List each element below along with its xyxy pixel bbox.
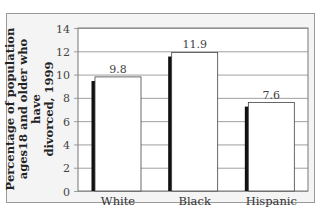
value-label: 9.8 <box>109 63 127 76</box>
category-label: Hispanic <box>246 194 297 208</box>
y-tick-label: 8 <box>63 92 70 105</box>
y-tick-label: 12 <box>56 46 70 59</box>
category-label: White <box>101 194 136 208</box>
bar-black <box>172 52 218 191</box>
y-tick-label: 4 <box>63 139 70 152</box>
value-label: 11.9 <box>182 38 207 51</box>
bar-chart: 024681012149.8White11.9Black7.6Hispanic <box>0 0 325 218</box>
bar-hispanic <box>248 103 294 191</box>
bar-white <box>95 77 141 191</box>
y-tick-label: 14 <box>56 23 70 36</box>
value-label: 7.6 <box>263 89 281 102</box>
y-tick-label: 0 <box>63 186 70 199</box>
y-tick-label: 10 <box>56 69 70 82</box>
category-label: Black <box>178 194 211 208</box>
y-tick-label: 2 <box>63 162 70 175</box>
y-tick-label: 6 <box>63 116 70 129</box>
